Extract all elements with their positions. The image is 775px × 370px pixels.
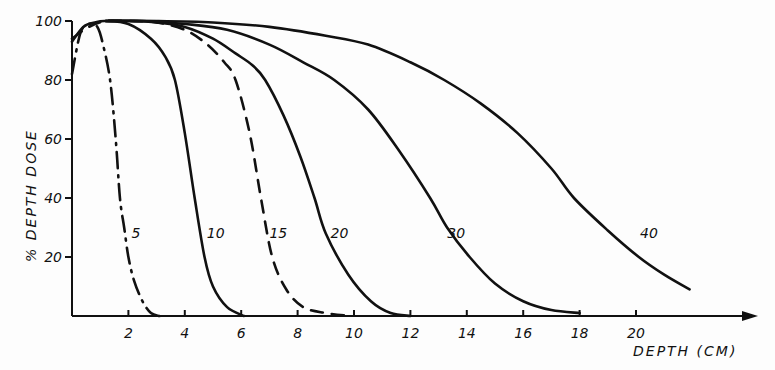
x-tick-label: 10 (345, 325, 363, 341)
x-tick-label: 12 (401, 325, 419, 341)
x-tick-label: 20 (627, 325, 645, 341)
y-tick-label: 40 (44, 190, 62, 206)
axes: 204060801002468101214161820 (35, 13, 758, 341)
curve-label-5: 5 (131, 225, 140, 241)
y-tick-label: 80 (44, 72, 62, 88)
x-tick-label: 16 (514, 325, 532, 341)
curve-label-30: 30 (447, 225, 465, 241)
x-tick-label: 8 (293, 325, 302, 341)
curve-30 (106, 21, 580, 313)
curve-40 (106, 21, 690, 290)
curve-labels: 51015203040 (131, 225, 658, 241)
curve-label-10: 10 (207, 225, 225, 241)
x-tick-label: 2 (124, 325, 133, 341)
x-tick-label: 4 (180, 325, 189, 341)
y-tick-label: 100 (35, 13, 62, 29)
curve-10 (72, 21, 244, 316)
curve-20 (106, 21, 411, 316)
curve-5 (72, 24, 159, 316)
x-tick-label: 18 (571, 325, 589, 341)
curve-label-15: 15 (269, 225, 287, 241)
x-tick-label: 6 (237, 325, 246, 341)
y-tick-label: 60 (44, 131, 62, 147)
curves (72, 21, 690, 316)
y-axis-title: % DEPTH DOSE (23, 129, 39, 262)
curve-label-40: 40 (640, 225, 658, 241)
x-tick-label: 14 (458, 325, 476, 341)
curve-label-20: 20 (331, 225, 349, 241)
y-tick-label: 20 (44, 249, 62, 265)
x-axis-title: DEPTH (CM) (633, 343, 737, 359)
depth-dose-chart: 204060801002468101214161820 51015203040 … (0, 0, 775, 370)
x-axis-arrow-icon (742, 311, 758, 321)
